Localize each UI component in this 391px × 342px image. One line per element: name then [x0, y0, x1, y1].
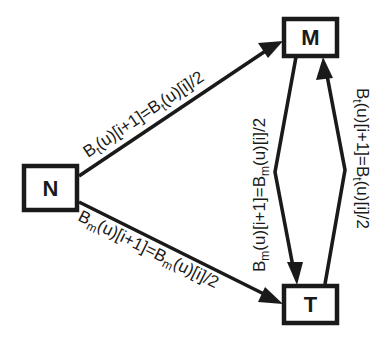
- edge-line: [79, 48, 270, 176]
- node-label: M: [301, 25, 319, 50]
- arrowhead-icon: [258, 287, 283, 304]
- edge-t-to-m: [316, 57, 345, 284]
- node-t[interactable]: T: [284, 286, 337, 323]
- node-n[interactable]: N: [24, 166, 77, 210]
- arrowhead-icon: [316, 57, 333, 80]
- node-m[interactable]: M: [284, 19, 337, 56]
- edge-m-to-t: [275, 57, 303, 285]
- edge-line: [275, 57, 296, 272]
- edge-label-n-to-m: Bt(u)[i+1]=Bt(u)[i]/2: [80, 67, 209, 164]
- state-diagram: M T N Bt(u)[i+1]=Bt(u)[i]/2 Bm(u)[i+1]=B…: [0, 0, 391, 342]
- node-label: T: [304, 292, 318, 317]
- arrowhead-icon: [287, 262, 303, 285]
- edge-line: [325, 70, 345, 284]
- edge-line: [79, 202, 270, 297]
- edge-label-m-to-t: Bm(u)[i+1]=Bm(u)[i]/2: [250, 118, 272, 272]
- edge-label-n-to-t: Bm(u)[i+1]=Bm(u)[i]/2: [74, 207, 222, 295]
- node-label: N: [43, 176, 59, 201]
- edge-label-t-to-m: Bt(u)[i+1]=Bt(u)[i]/2: [350, 88, 372, 229]
